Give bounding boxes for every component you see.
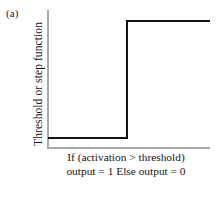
figure-caption: If (activation > threshold) output = 1 E… (40, 150, 212, 178)
y-axis-label: Threshold or step function (31, 6, 47, 146)
caption-line-2: output = 1 Else output = 0 (40, 164, 212, 178)
y-axis-line (47, 10, 49, 149)
panel-label: (a) (6, 7, 19, 20)
step-curve-riser (126, 20, 128, 139)
caption-line-1: If (activation > threshold) (40, 150, 212, 164)
step-curve-low-plateau (48, 137, 128, 139)
plot-area (47, 9, 211, 149)
x-axis-line (47, 147, 210, 149)
step-curve-high-plateau (126, 20, 210, 22)
figure-panel: (a) Threshold or step function If (activ… (0, 0, 217, 200)
